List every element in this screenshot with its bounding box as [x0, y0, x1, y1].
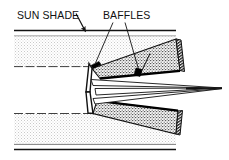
figure-container: SUN SHADE BAFFLES: [0, 0, 229, 160]
baffles-label: BAFFLES: [103, 9, 150, 21]
sun-shade-label: SUN SHADE: [17, 9, 79, 21]
telescope-sun-shade-baffle-diagram: SUN SHADE BAFFLES: [0, 0, 229, 160]
